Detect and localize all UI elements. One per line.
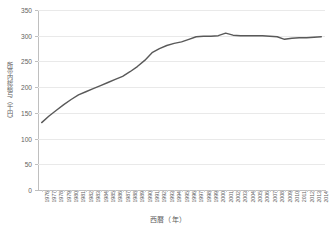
x-tick-mark — [78, 190, 79, 192]
x-tick-label: 1976 — [44, 191, 50, 203]
y-tick-label: 50 — [0, 161, 32, 168]
x-tick-mark — [196, 190, 197, 192]
x-tick-label: 1986 — [117, 191, 123, 203]
x-tick-label: 2012 — [309, 191, 315, 203]
x-tick-label: 2006 — [264, 191, 270, 203]
x-tick-label: 1984 — [103, 191, 109, 203]
x-tick-label: 2001 — [228, 191, 234, 203]
x-tick-mark — [56, 190, 57, 192]
y-tick-label: 250 — [0, 58, 32, 65]
x-tick-label: 1980 — [73, 191, 79, 203]
x-tick-mark — [189, 190, 190, 192]
x-tick-label: 2002 — [235, 191, 241, 203]
x-tick-mark — [145, 190, 146, 192]
x-tick-mark — [240, 190, 241, 192]
x-tick-label: 2000 — [220, 191, 226, 203]
x-tick-label: 2008 — [279, 191, 285, 203]
x-tick-mark — [211, 190, 212, 192]
x-tick-label: 2009 — [287, 191, 293, 203]
x-tick-label: 1996 — [191, 191, 197, 203]
series-line-group — [38, 10, 325, 190]
line-chart: 所帯内総給与（千円） 050100150200250300350 1976197… — [0, 0, 336, 230]
x-tick-mark — [314, 190, 315, 192]
x-tick-mark — [255, 190, 256, 192]
x-tick-mark — [101, 190, 102, 192]
x-tick-label: 2005 — [257, 191, 263, 203]
x-tick-mark — [130, 190, 131, 192]
x-tick-label: 2014 — [323, 191, 329, 203]
x-tick-label: 1991 — [154, 191, 160, 203]
x-tick-label: 2004 — [250, 191, 256, 203]
x-tick-mark — [42, 190, 43, 192]
x-tick-mark — [167, 190, 168, 192]
x-tick-mark — [93, 190, 94, 192]
x-tick-mark — [86, 190, 87, 192]
x-tick-mark — [299, 190, 300, 192]
x-axis-title: 西暦（年） — [0, 214, 336, 224]
y-tick-label: 200 — [0, 84, 32, 91]
x-tick-label: 1998 — [206, 191, 212, 203]
x-tick-mark — [174, 190, 175, 192]
x-tick-label: 1994 — [176, 191, 182, 203]
x-tick-mark — [285, 190, 286, 192]
x-tick-mark — [277, 190, 278, 192]
x-tick-label: 2003 — [242, 191, 248, 203]
y-tick-label: 0 — [0, 187, 32, 194]
x-tick-label: 2007 — [272, 191, 278, 203]
x-tick-label: 1988 — [132, 191, 138, 203]
x-tick-mark — [159, 190, 160, 192]
x-tick-mark — [321, 190, 322, 192]
x-tick-label: 2010 — [294, 191, 300, 203]
x-tick-mark — [123, 190, 124, 192]
x-tick-mark — [292, 190, 293, 192]
x-tick-label: 1985 — [110, 191, 116, 203]
x-tick-mark — [226, 190, 227, 192]
x-tick-label: 1992 — [161, 191, 167, 203]
x-tick-mark — [182, 190, 183, 192]
plot-area — [38, 10, 325, 190]
x-tick-label: 1983 — [95, 191, 101, 203]
x-tick-mark — [204, 190, 205, 192]
y-tick-label: 350 — [0, 7, 32, 14]
x-tick-mark — [262, 190, 263, 192]
y-tick-label: 300 — [0, 32, 32, 39]
x-tick-label: 1977 — [51, 191, 57, 203]
x-tick-mark — [270, 190, 271, 192]
x-tick-label: 2011 — [301, 191, 307, 202]
x-tick-mark — [108, 190, 109, 192]
x-tick-label: 1995 — [184, 191, 190, 203]
x-tick-mark — [115, 190, 116, 192]
x-tick-mark — [248, 190, 249, 192]
x-tick-mark — [307, 190, 308, 192]
x-tick-mark — [137, 190, 138, 192]
x-tick-label: 1978 — [58, 191, 64, 203]
x-tick-mark — [49, 190, 50, 192]
x-tick-mark — [64, 190, 65, 192]
x-tick-mark — [218, 190, 219, 192]
x-tick-label: 1993 — [169, 191, 175, 203]
y-tick-label: 150 — [0, 109, 32, 116]
x-tick-label: 1997 — [198, 191, 204, 203]
x-tick-mark — [71, 190, 72, 192]
x-tick-label: 1982 — [88, 191, 94, 203]
x-tick-label: 2013 — [316, 191, 322, 203]
y-tick-label: 100 — [0, 135, 32, 142]
x-tick-mark — [152, 190, 153, 192]
x-tick-label: 1981 — [80, 191, 86, 203]
x-tick-label: 1987 — [125, 191, 131, 203]
series-line — [42, 33, 322, 122]
x-axis: 1976197719781979198019811982198319841985… — [38, 191, 325, 213]
x-tick-label: 1989 — [139, 191, 145, 203]
x-tick-mark — [233, 190, 234, 192]
x-tick-label: 1999 — [213, 191, 219, 203]
x-tick-label: 1979 — [66, 191, 72, 203]
x-tick-label: 1990 — [147, 191, 153, 203]
